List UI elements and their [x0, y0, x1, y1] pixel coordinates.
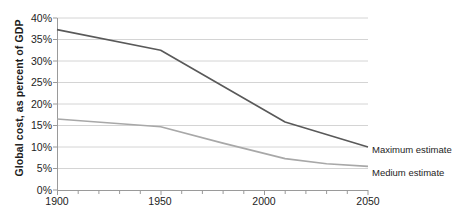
y-axis-line: [53, 18, 58, 190]
series-line-maximum-estimate: [57, 30, 368, 147]
figure-caption-cropped: [0, 214, 470, 222]
gridlines: [57, 18, 368, 169]
chart-canvas: [0, 0, 470, 222]
series-line-medium-estimate: [57, 119, 368, 166]
series-label-maximum-estimate: Maximum estimate: [372, 144, 452, 155]
line-chart: Global cost, as percent of GDP 40% 35% 3…: [0, 0, 470, 222]
series-label-medium-estimate: Medium estimate: [372, 167, 444, 178]
x-axis-line: [57, 190, 368, 195]
